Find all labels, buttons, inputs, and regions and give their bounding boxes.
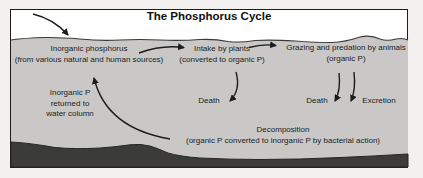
label-intake-by-plants: Intake by plants (converted to organic P… (179, 44, 264, 65)
intake-by-plants-line1: Intake by plants (179, 44, 264, 55)
grazing-line2: (organic P) (286, 54, 406, 65)
inorganic-p-returned-line3: water column (46, 109, 94, 120)
diagram-title: The Phosphorus Cycle (147, 10, 272, 22)
inorganic-phosphorus-line1: Inorganic phosphorus (15, 44, 164, 55)
inorganic-p-returned-line1: Inorganic P (46, 88, 94, 99)
label-death-plants: Death (198, 96, 219, 107)
label-excretion: Excretion (362, 96, 395, 107)
decomposition-line1: Decomposition (186, 125, 380, 136)
intake-by-plants-line2: (converted to organic P) (179, 55, 264, 66)
label-decomposition: Decomposition (organic P converted to in… (186, 125, 380, 146)
label-inorganic-phosphorus: Inorganic phosphorus (from various natur… (15, 44, 164, 65)
decomposition-line2: (organic P converted to inorganic P by b… (186, 136, 380, 147)
inorganic-phosphorus-line2: (from various natural and human sources) (15, 55, 164, 66)
inorganic-p-returned-line2: returned to (46, 99, 94, 110)
label-death-animals: Death (306, 96, 327, 107)
grazing-line1: Grazing and predation by animals (286, 43, 406, 54)
label-grazing: Grazing and predation by animals (organi… (286, 43, 406, 64)
label-inorganic-p-returned: Inorganic P returned to water column (46, 88, 94, 120)
arrow-external-input (33, 14, 68, 35)
